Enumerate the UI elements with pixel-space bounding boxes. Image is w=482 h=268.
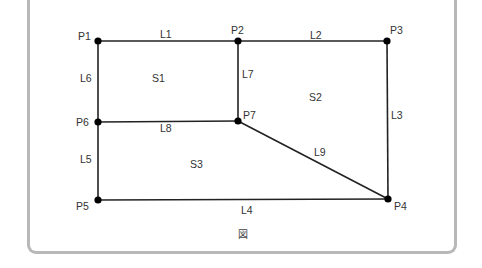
line-label-l4: L4 [241, 204, 253, 216]
point-p3 [383, 37, 390, 44]
point-p6 [94, 118, 101, 125]
point-p1 [94, 37, 101, 44]
point-label-p4: P4 [394, 200, 407, 212]
line-label-l1: L1 [160, 28, 172, 40]
point-label-p2: P2 [231, 24, 244, 36]
line-l9 [238, 121, 388, 199]
line-label-l9: L9 [314, 146, 326, 158]
figure-caption: 図 [237, 229, 249, 241]
point-label-p6: P6 [76, 116, 89, 128]
point-label-p3: P3 [390, 24, 403, 36]
line-label-l6: L6 [80, 72, 92, 84]
surface-label-s2: S2 [309, 91, 322, 103]
point-p5 [94, 196, 101, 203]
point-p4 [384, 195, 391, 202]
line-label-l2: L2 [310, 29, 322, 41]
point-p7 [234, 117, 241, 124]
labels-layer: L1L2L3L4L5L6L7L8L9P1P2P3P4P5P6P7S1S2S3 [76, 24, 407, 216]
polygon-diagram: L1L2L3L4L5L6L7L8L9P1P2P3P4P5P6P7S1S2S3 [0, 0, 482, 268]
surface-label-s3: S3 [190, 158, 203, 170]
point-label-p5: P5 [76, 200, 89, 212]
line-label-l3: L3 [391, 109, 403, 121]
line-label-l5: L5 [80, 153, 92, 165]
point-label-p7: P7 [243, 109, 256, 121]
line-l4 [98, 199, 388, 200]
line-label-l8: L8 [160, 122, 172, 134]
line-l3 [387, 41, 388, 199]
point-p2 [234, 37, 241, 44]
point-label-p1: P1 [78, 30, 91, 42]
line-label-l7: L7 [242, 68, 254, 80]
surface-label-s1: S1 [152, 72, 165, 84]
